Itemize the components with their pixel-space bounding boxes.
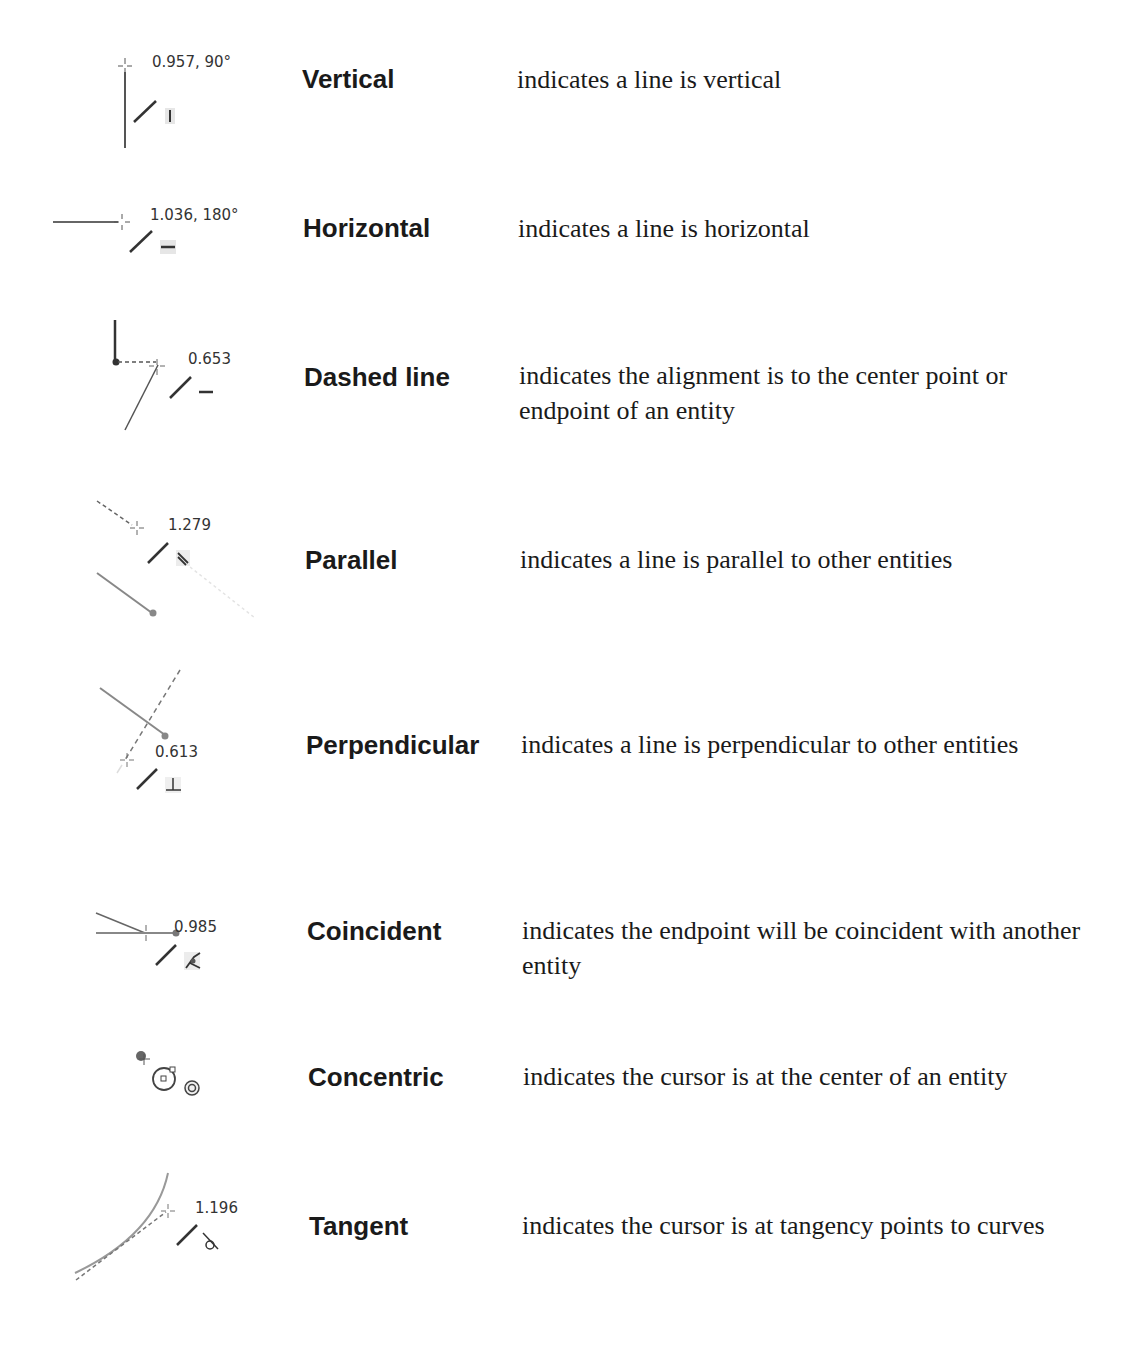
- relation-label: Tangent: [309, 1211, 408, 1242]
- relation-label: Concentric: [308, 1062, 444, 1093]
- relation-description: indicates the alignment is to the center…: [519, 358, 1089, 428]
- parallel-relation-icon: 1.279: [90, 495, 260, 629]
- coincident-relation-icon: 0.985: [90, 905, 240, 984]
- relation-description: indicates a line is perpendicular to oth…: [521, 727, 1121, 762]
- relation-description: indicates a line is horizontal: [518, 211, 1098, 246]
- dashed-line-inference-icon: 0.653: [100, 315, 250, 439]
- relation-label: Dashed line: [304, 362, 450, 393]
- relation-label: Vertical: [302, 64, 395, 95]
- readout: 0.653: [188, 350, 231, 368]
- relation-description: indicates the endpoint will be coinciden…: [522, 913, 1082, 983]
- horizontal-relation-icon: 1.036, 180°: [50, 200, 260, 264]
- relation-label: Horizontal: [303, 213, 430, 244]
- perpendicular-relation-icon: 0.613: [95, 665, 245, 804]
- relation-description: indicates a line is parallel to other en…: [520, 542, 1100, 577]
- tangent-relation-icon: 1.196: [70, 1165, 250, 1289]
- readout: 1.196: [195, 1199, 238, 1217]
- relation-description: indicates the cursor is at tangency poin…: [522, 1208, 1052, 1243]
- vertical-relation-icon: 0.957, 90°: [110, 50, 250, 164]
- concentric-relation-icon: [130, 1045, 220, 1109]
- relation-label: Parallel: [305, 545, 398, 576]
- relation-label: Perpendicular: [306, 730, 479, 761]
- readout: 0.985: [174, 918, 217, 936]
- relation-description: indicates a line is vertical: [517, 62, 1097, 97]
- relation-label: Coincident: [307, 916, 441, 947]
- relation-description: indicates the cursor is at the center of…: [523, 1059, 1103, 1094]
- readout: 0.613: [155, 743, 198, 761]
- readout: 0.957, 90°: [152, 53, 231, 71]
- readout: 1.279: [168, 516, 211, 534]
- readout: 1.036, 180°: [150, 206, 239, 224]
